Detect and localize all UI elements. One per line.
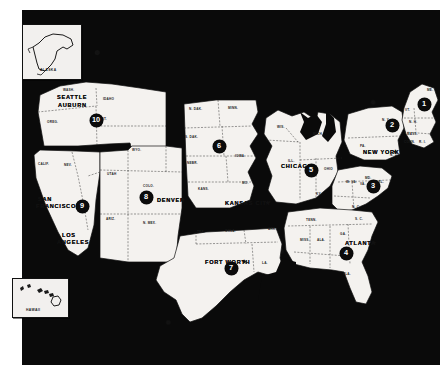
state-label: MO. xyxy=(242,181,249,185)
state-label: OHIO xyxy=(324,167,333,171)
city-label: ANGELES xyxy=(57,239,89,245)
district-badge-5[interactable]: 5 xyxy=(305,164,318,177)
state-label: CONN. xyxy=(404,140,415,144)
map-canvas: .land{fill:#f4f2ef;stroke:#111;stroke-wi… xyxy=(0,0,445,377)
state-label: VT. xyxy=(405,108,410,112)
state-label: R. I. xyxy=(419,140,426,144)
state-label: N. H. xyxy=(409,120,417,124)
state-label: N. MEX. xyxy=(143,221,156,225)
state-label: COLO. xyxy=(143,184,154,188)
state-label: MINN. xyxy=(228,106,238,110)
state-label: UTAH xyxy=(107,172,116,176)
district-badge-3[interactable]: 3 xyxy=(367,180,380,193)
city-label: SAN xyxy=(38,196,52,202)
city-star-icon: ★ xyxy=(179,196,185,203)
state-label: ME. xyxy=(427,88,433,92)
state-label: MICH. xyxy=(313,132,323,136)
state-label: PA. xyxy=(360,144,366,148)
state-label: ARIZ. xyxy=(106,217,115,221)
district-badge-2[interactable]: 2 xyxy=(386,119,399,132)
city-label: LOS xyxy=(62,232,76,238)
state-label: WASH. xyxy=(63,88,74,92)
state-label: ARK. xyxy=(268,227,277,231)
state-label: MISS. xyxy=(300,238,310,242)
district-badge-10[interactable]: 10 xyxy=(90,114,103,127)
state-label: FLA. xyxy=(343,272,351,276)
district-badge-6[interactable]: 6 xyxy=(213,140,226,153)
state-label: WIS. xyxy=(277,125,285,129)
state-label: WYO. xyxy=(132,148,141,152)
hawaii-inset[interactable] xyxy=(12,278,69,318)
state-label: N. DAK. xyxy=(189,107,202,111)
state-label: ALA. xyxy=(317,238,325,242)
alaska-inset-label: ALASKA xyxy=(40,68,57,72)
state-label: MASS. xyxy=(407,132,418,136)
city-star-icon: ★ xyxy=(371,239,377,246)
state-label: KY. xyxy=(316,192,322,196)
city-label: FRANCISCO xyxy=(36,203,76,209)
state-label: S. C. xyxy=(355,217,363,221)
state-label: OREG. xyxy=(47,120,58,124)
state-label: GA. xyxy=(340,232,346,236)
state-label: TEX. xyxy=(197,230,205,234)
state-label: NEBR. xyxy=(187,161,198,165)
city-star-icon: ★ xyxy=(392,148,398,155)
state-label: S. DAK. xyxy=(185,135,198,139)
state-label: IOWA xyxy=(235,154,244,158)
region-8-mountain[interactable] xyxy=(100,146,182,262)
region-10-northwest[interactable] xyxy=(38,82,166,150)
state-label: W. VA. xyxy=(346,180,357,184)
district-badge-9[interactable]: 9 xyxy=(76,200,89,213)
region-3-mid-atlantic[interactable] xyxy=(332,166,392,212)
district-badge-8[interactable]: 8 xyxy=(140,191,153,204)
state-label: KANS. xyxy=(198,187,209,191)
city-star-icon: ★ xyxy=(264,199,270,206)
city-label: SEATTLE xyxy=(57,94,87,100)
city-label: AUBURN xyxy=(58,102,87,108)
state-label: CALIF. xyxy=(38,162,49,166)
state-label: OKLA. xyxy=(225,229,236,233)
region-6-upper-midwest[interactable] xyxy=(184,100,258,208)
region-1-new-england[interactable] xyxy=(402,84,438,148)
district-badge-1[interactable]: 1 xyxy=(418,98,431,111)
state-label: TENN. xyxy=(306,218,317,222)
region-4-southeast[interactable] xyxy=(284,208,378,304)
state-label: N. C. xyxy=(352,205,360,209)
city-star-icon: ★ xyxy=(241,258,247,265)
district-badge-7[interactable]: 7 xyxy=(225,262,238,275)
hawaii-inset-label: HAWAII xyxy=(26,308,40,312)
district-badge-4[interactable]: 4 xyxy=(340,247,353,260)
state-label: VA. xyxy=(360,182,366,186)
hawaii-outline xyxy=(13,279,68,317)
state-label: IDAHO xyxy=(103,97,114,101)
state-label: NEV. xyxy=(64,163,72,167)
state-label: LA. xyxy=(262,261,268,265)
